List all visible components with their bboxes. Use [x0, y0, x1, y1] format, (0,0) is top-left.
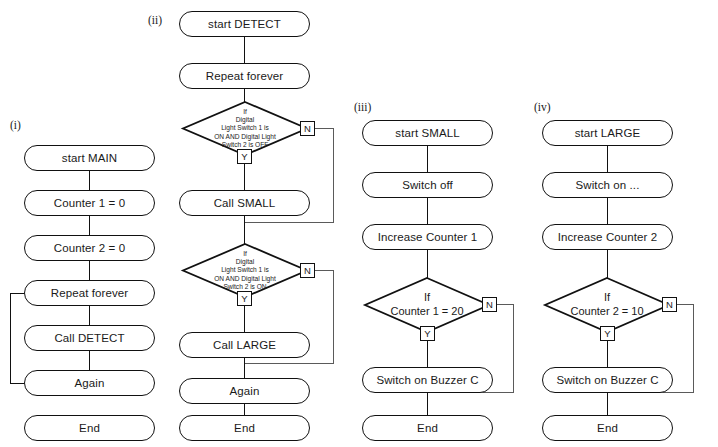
node-counter2-init[interactable]: Counter 2 = 0 — [24, 235, 155, 261]
connector-large-4 — [607, 393, 608, 415]
flowchart-canvas: (i) start MAIN Counter 1 = 0 Counter 2 =… — [0, 0, 718, 447]
node-end-detect[interactable]: End — [179, 415, 310, 441]
node-switch-on-buzzer-c-large[interactable]: Switch on Buzzer C — [542, 367, 673, 393]
connector-detect-no1-join — [244, 222, 334, 223]
connector-detect-yes1 — [244, 164, 245, 191]
node-end-large[interactable]: End — [542, 415, 673, 441]
connector-detect-yes2 — [244, 306, 245, 333]
node-again-detect[interactable]: Again — [179, 378, 310, 404]
node-end-main[interactable]: End — [24, 415, 155, 441]
decision-switch1-on-switch2-on[interactable]: If Digital Light Switch 1 is ON AND Digi… — [182, 243, 308, 298]
branch-yes-decision-1[interactable]: Y — [237, 149, 252, 164]
connector-small-4 — [427, 393, 428, 415]
node-start-large[interactable]: start LARGE — [542, 120, 673, 146]
connector-main-loop-bottom — [10, 383, 25, 384]
connector-large-3 — [607, 250, 608, 278]
branch-yes-decision-3[interactable]: Y — [420, 326, 435, 341]
node-switch-off[interactable]: Switch off — [362, 172, 493, 198]
branch-no-decision-3[interactable]: N — [482, 297, 497, 312]
branch-no-decision-1[interactable]: N — [300, 121, 315, 136]
connector-large-no-right — [677, 304, 694, 305]
node-increase-counter-1[interactable]: Increase Counter 1 — [362, 224, 493, 250]
connector-detect-no1-down — [333, 128, 334, 222]
node-switch-on-buzzer-c-small[interactable]: Switch on Buzzer C — [362, 367, 493, 393]
connector-detect-1 — [244, 37, 245, 63]
connector-detect-no2-down — [333, 270, 334, 363]
column-caption-iv: (iv) — [534, 101, 551, 113]
column-caption-i: (i) — [10, 119, 21, 131]
connector-detect-no2-join — [244, 363, 334, 364]
connector-small-3 — [427, 250, 428, 278]
connector-large-no-down — [693, 304, 694, 392]
connector-small-no-down — [513, 304, 514, 392]
decision-counter1-equals-20[interactable]: If Counter 1 = 20 — [364, 277, 490, 333]
connector-detect-no2-right — [315, 270, 334, 271]
branch-no-decision-2[interactable]: N — [300, 263, 315, 278]
node-start-small[interactable]: start SMALL — [362, 120, 493, 146]
connector-small-1 — [427, 146, 428, 172]
node-call-detect[interactable]: Call DETECT — [24, 325, 155, 351]
branch-no-decision-4[interactable]: N — [662, 297, 677, 312]
connector-detect-5 — [244, 404, 245, 415]
node-call-small[interactable]: Call SMALL — [179, 190, 310, 216]
branch-yes-decision-2[interactable]: Y — [237, 291, 252, 306]
node-end-small[interactable]: End — [362, 415, 493, 441]
node-start-main[interactable]: start MAIN — [24, 145, 155, 171]
branch-yes-decision-4[interactable]: Y — [600, 326, 615, 341]
connector-detect-3 — [244, 216, 245, 244]
column-caption-ii: (ii) — [148, 14, 162, 26]
connector-small-yes — [427, 341, 428, 368]
node-increase-counter-2[interactable]: Increase Counter 2 — [542, 224, 673, 250]
decision-switch1-on-switch2-off[interactable]: If Digital Light Switch 1 is ON AND Digi… — [182, 101, 308, 156]
node-repeat-forever-detect[interactable]: Repeat forever — [179, 63, 310, 89]
node-start-detect[interactable]: start DETECT — [179, 11, 310, 37]
connector-small-no-right — [497, 304, 514, 305]
node-again-main[interactable]: Again — [24, 370, 155, 396]
decision-counter2-equals-10[interactable]: If Counter 2 = 10 — [544, 277, 670, 333]
connector-main-loop-left — [10, 293, 11, 383]
node-switch-on[interactable]: Switch on ... — [542, 172, 673, 198]
connector-large-2 — [607, 198, 608, 224]
connector-small-2 — [427, 198, 428, 224]
node-counter1-init[interactable]: Counter 1 = 0 — [24, 190, 155, 216]
column-caption-iii: (iii) — [354, 101, 371, 113]
connector-large-yes — [607, 341, 608, 368]
node-call-large[interactable]: Call LARGE — [179, 332, 310, 358]
node-repeat-forever-main[interactable]: Repeat forever — [24, 280, 155, 306]
connector-large-1 — [607, 146, 608, 172]
connector-detect-no1-right — [315, 128, 334, 129]
connector-main-loop-top — [10, 293, 25, 294]
